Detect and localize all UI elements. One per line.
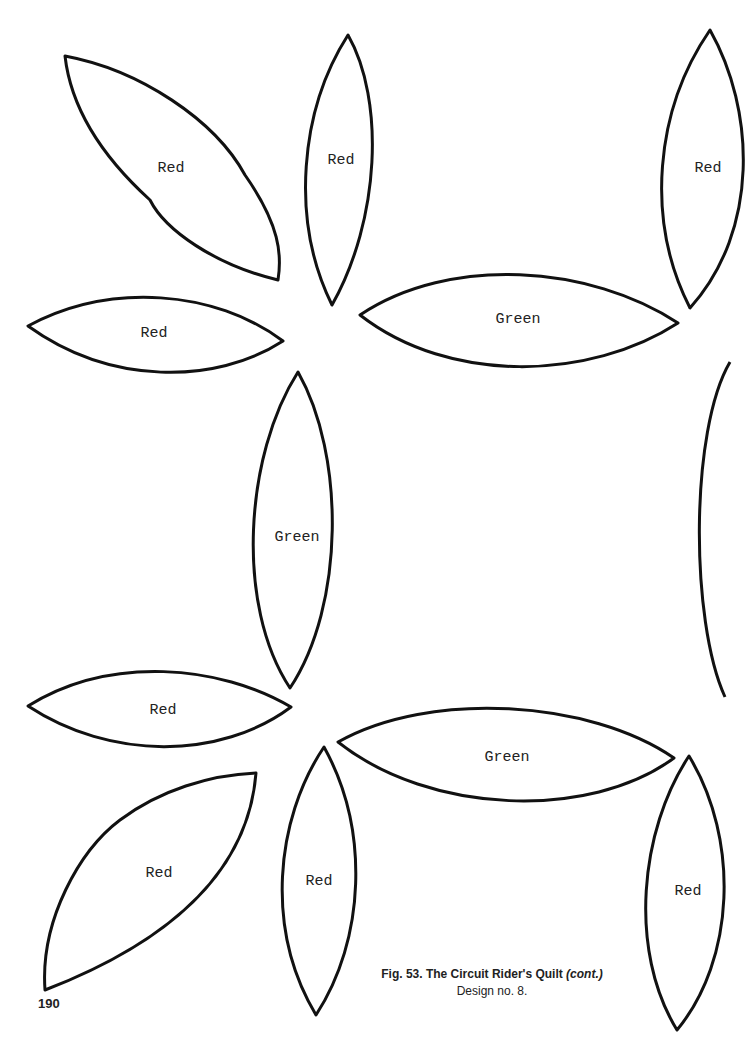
- quilt-pattern-drawing: [0, 0, 756, 1049]
- figure-continued: (cont.): [566, 967, 603, 981]
- figure-subtitle: Design no. 8.: [368, 983, 616, 1000]
- piece-label: Red: [305, 873, 332, 890]
- figure-title: Fig. 53. The Circuit Rider's Quilt: [381, 967, 563, 981]
- piece-label: Red: [694, 160, 721, 177]
- piece-label: Red: [145, 865, 172, 882]
- piece-label: Red: [674, 883, 701, 900]
- piece-label: Green: [484, 749, 529, 766]
- document-page: Red Red Red Red Green Green Red Green Re…: [0, 0, 756, 1049]
- pattern-piece-red-diagonal-bottom: [45, 773, 256, 990]
- piece-label: Red: [327, 152, 354, 169]
- pattern-piece-partial-arc-right: [699, 362, 730, 697]
- figure-caption: Fig. 53. The Circuit Rider's Quilt (cont…: [368, 966, 616, 1000]
- piece-label: Green: [274, 529, 319, 546]
- piece-label: Red: [140, 325, 167, 342]
- piece-label: Red: [149, 702, 176, 719]
- page-number: 190: [38, 996, 60, 1011]
- pattern-piece-red-vertical-top-center: [306, 35, 373, 305]
- piece-label: Red: [157, 160, 184, 177]
- piece-label: Green: [495, 311, 540, 328]
